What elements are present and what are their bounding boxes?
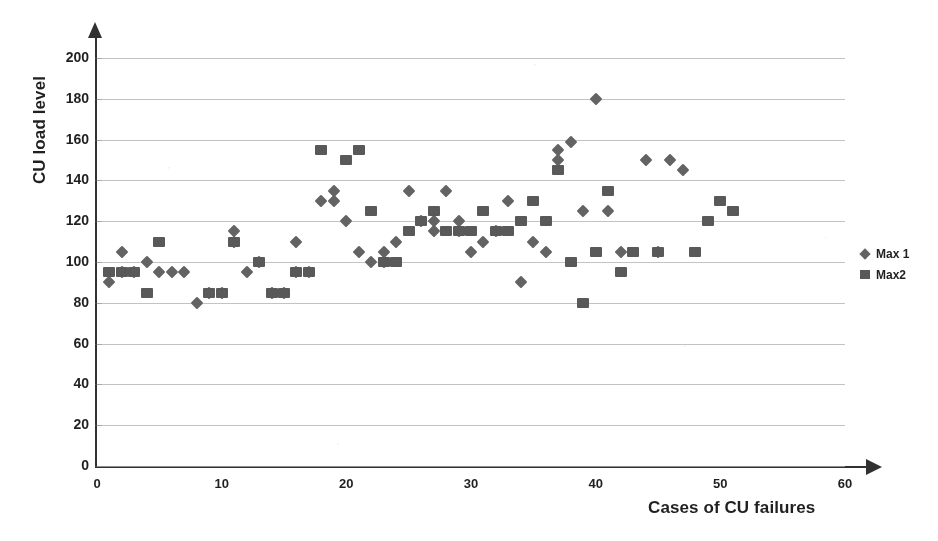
data-point-max2 (428, 206, 440, 216)
data-point-max2 (378, 257, 390, 267)
gridline (97, 140, 845, 141)
x-axis-tick-label: 0 (77, 476, 117, 491)
y-axis-tick-label: 200 (45, 49, 89, 65)
data-point-max1 (552, 143, 565, 156)
gridline (97, 221, 845, 222)
data-point-max1 (602, 205, 615, 218)
x-axis-tick-label: 30 (451, 476, 491, 491)
gridline (97, 344, 845, 345)
data-point-max2 (290, 267, 302, 277)
data-point-max2 (440, 226, 452, 236)
data-point-max1 (514, 276, 527, 289)
legend-item-label: Max 1 (876, 247, 909, 261)
legend-item[interactable]: Max2 (858, 264, 909, 285)
data-point-max1 (614, 245, 627, 258)
y-axis-tick-label: 100 (45, 253, 89, 269)
y-axis-tick-label: 180 (45, 90, 89, 106)
data-point-max2 (552, 165, 564, 175)
y-axis-tick-label: 60 (45, 335, 89, 351)
gridline (97, 466, 845, 467)
data-point-max2 (477, 206, 489, 216)
data-point-max2 (453, 226, 465, 236)
data-point-max1 (589, 92, 602, 105)
data-point-max2 (465, 226, 477, 236)
data-point-max1 (290, 235, 303, 248)
data-point-max1 (539, 245, 552, 258)
x-axis-tick-label: 50 (700, 476, 740, 491)
data-point-max1 (502, 194, 515, 207)
legend-item-label: Max2 (876, 268, 906, 282)
data-point-max1 (664, 154, 677, 167)
data-point-max1 (677, 164, 690, 177)
gridline (97, 180, 845, 181)
x-axis-tick-label: 60 (825, 476, 865, 491)
data-point-max1 (153, 266, 166, 279)
data-point-max1 (140, 256, 153, 269)
data-point-max1 (639, 154, 652, 167)
y-axis-tick-label: 160 (45, 131, 89, 147)
data-point-max2 (128, 267, 140, 277)
data-point-max1 (190, 296, 203, 309)
chart-canvas: CU load level 02040608010012014016018020… (0, 0, 938, 541)
diamond-marker-icon (858, 250, 872, 258)
data-point-max2 (365, 206, 377, 216)
x-axis-tick-label: 10 (202, 476, 242, 491)
gridline (97, 303, 845, 304)
data-point-max2 (490, 226, 502, 236)
data-point-max1 (103, 276, 116, 289)
data-point-max2 (116, 267, 128, 277)
data-point-max2 (627, 247, 639, 257)
data-point-max2 (216, 288, 228, 298)
data-point-max2 (353, 145, 365, 155)
data-point-max2 (153, 237, 165, 247)
plot-area (97, 58, 845, 466)
data-point-max2 (527, 196, 539, 206)
data-point-max2 (577, 298, 589, 308)
data-point-max1 (327, 194, 340, 207)
x-axis-arrow-icon (866, 459, 882, 475)
y-axis-tick-label: 40 (45, 375, 89, 391)
data-point-max2 (727, 206, 739, 216)
data-point-max2 (340, 155, 352, 165)
data-point-max1 (390, 235, 403, 248)
legend-item[interactable]: Max 1 (858, 243, 909, 264)
y-axis-tick-label: 140 (45, 171, 89, 187)
data-point-max2 (565, 257, 577, 267)
data-point-max1 (427, 215, 440, 228)
data-point-max2 (315, 145, 327, 155)
data-point-max2 (390, 257, 402, 267)
data-point-max2 (415, 216, 427, 226)
gridline (97, 384, 845, 385)
data-point-max2 (602, 186, 614, 196)
y-axis-tick-label: 120 (45, 212, 89, 228)
data-point-max1 (365, 256, 378, 269)
data-point-max1 (402, 184, 415, 197)
x-axis-tick-label: 20 (326, 476, 366, 491)
data-point-max1 (527, 235, 540, 248)
data-point-max1 (477, 235, 490, 248)
x-axis-tick-label: 40 (576, 476, 616, 491)
data-point-max2 (228, 237, 240, 247)
y-axis-arrow-icon (88, 22, 102, 38)
data-point-max1 (465, 245, 478, 258)
data-point-max2 (141, 288, 153, 298)
gridline (97, 262, 845, 263)
data-point-max1 (240, 266, 253, 279)
data-point-max2 (502, 226, 514, 236)
data-point-max2 (403, 226, 415, 236)
data-point-max1 (340, 215, 353, 228)
data-point-max1 (165, 266, 178, 279)
x-axis-title: Cases of CU failures (648, 498, 815, 518)
gridline (97, 425, 845, 426)
data-point-max2 (615, 267, 627, 277)
data-point-max1 (116, 245, 129, 258)
data-point-max2 (590, 247, 602, 257)
data-point-max2 (515, 216, 527, 226)
data-point-max2 (103, 267, 115, 277)
data-point-max1 (564, 135, 577, 148)
gridline (97, 99, 845, 100)
gridline (97, 58, 845, 59)
data-point-max1 (178, 266, 191, 279)
data-point-max2 (253, 257, 265, 267)
legend: Max 1Max2 (858, 243, 909, 285)
